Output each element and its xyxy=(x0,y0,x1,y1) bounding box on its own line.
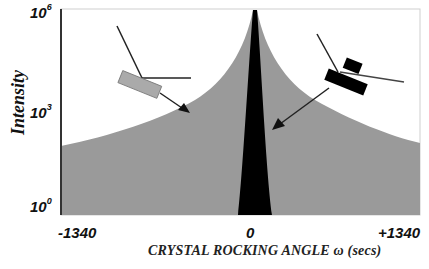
x-axis-label: CRYSTAL ROCKING ANGLE ω (secs) xyxy=(148,243,381,259)
x-tick-right: +1340 xyxy=(378,224,420,241)
x-tick-center: 0 xyxy=(246,224,254,241)
y-axis-label: Intensity xyxy=(8,70,29,135)
x-tick-left: -1340 xyxy=(58,224,96,241)
y-tick-top: 106 xyxy=(30,4,52,21)
y-tick-mid: 103 xyxy=(30,104,52,121)
y-tick-bottom: 100 xyxy=(30,198,52,215)
